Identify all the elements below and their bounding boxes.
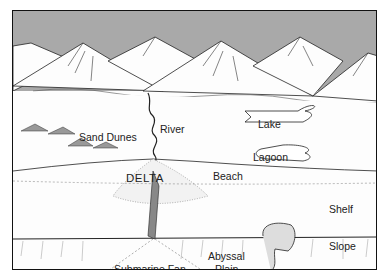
slump-feature xyxy=(263,223,295,270)
label-submarine-fan: Submarine Fan xyxy=(114,264,186,270)
landscape-illustration xyxy=(13,11,377,270)
label-abyssal: Abyssal xyxy=(208,251,245,262)
beach-line xyxy=(13,159,377,171)
label-river: River xyxy=(160,124,185,135)
label-delta: DELTA xyxy=(126,173,164,185)
label-sand-dunes: Sand Dunes xyxy=(79,132,137,143)
label-lagoon: Lagoon xyxy=(253,152,288,163)
label-lake: Lake xyxy=(258,119,281,130)
label-shelf: Shelf xyxy=(329,204,353,215)
diagram-frame: Sand Dunes River Lake Lagoon DELTA Beach… xyxy=(12,10,377,270)
label-plain: Plain xyxy=(215,264,238,270)
label-slope: Slope xyxy=(329,241,356,252)
label-beach: Beach xyxy=(213,171,243,182)
slope-hatch xyxy=(21,239,368,261)
shelf-break xyxy=(13,237,377,239)
